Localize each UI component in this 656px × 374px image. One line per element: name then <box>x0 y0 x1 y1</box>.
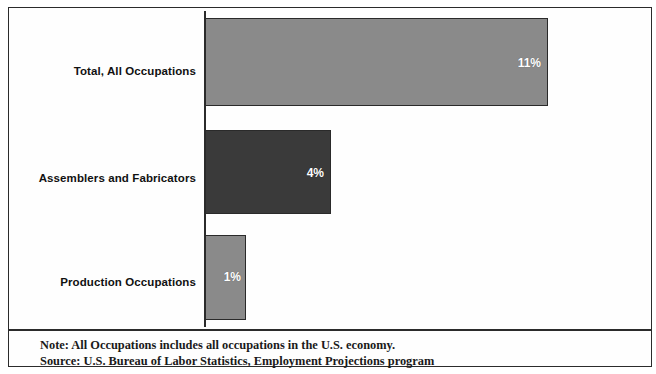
category-label-assemblers-and-fabricators: Assemblers and Fabricators <box>8 172 196 185</box>
bar-value-label-production-occupations: 1% <box>224 270 241 284</box>
bar-value-label-total-all-occupations: 11% <box>518 56 541 70</box>
bar-production-occupations: 1% <box>205 235 246 320</box>
footer-source-line: Source: U.S. Bureau of Labor Statistics,… <box>40 354 640 370</box>
bar-row: Production Occupations 1% <box>8 235 652 327</box>
plot-area: Total, All Occupations 11% Assemblers an… <box>8 7 652 330</box>
category-label-total-all-occupations: Total, All Occupations <box>8 65 196 78</box>
footer-note-line: Note: All Occupations includes all occup… <box>40 338 640 354</box>
bar-value-label-assemblers-and-fabricators: 4% <box>307 166 324 180</box>
bar-assemblers-and-fabricators: 4% <box>205 130 331 214</box>
footer-separator <box>8 329 652 331</box>
chart-figure: Total, All Occupations 11% Assemblers an… <box>0 0 656 374</box>
bar-total-all-occupations: 11% <box>205 18 548 106</box>
footer-notes: Note: All Occupations includes all occup… <box>40 338 640 369</box>
bar-row: Assemblers and Fabricators 4% <box>8 130 652 220</box>
category-label-production-occupations: Production Occupations <box>8 276 196 289</box>
bar-row: Total, All Occupations 11% <box>8 18 652 112</box>
